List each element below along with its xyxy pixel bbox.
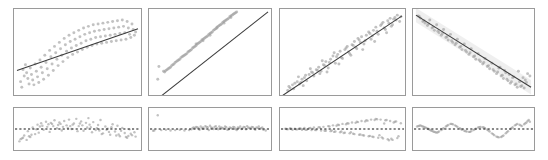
panel-scatter-2-plot	[149, 9, 271, 95]
panel-scatter-3	[279, 8, 406, 96]
panel-scatter-2	[148, 8, 272, 96]
panel-scatter-4-plot	[413, 9, 534, 95]
panel-scatter-3-plot	[280, 9, 405, 95]
panel-scatter-1	[13, 8, 142, 96]
panel-residual-4-plot	[413, 108, 534, 150]
panel-residual-1	[13, 107, 142, 151]
panel-residual-2-plot	[149, 108, 271, 150]
panel-scatter-1-plot	[14, 9, 141, 95]
panel-residual-2	[148, 107, 272, 151]
panel-scatter-4	[412, 8, 535, 96]
panel-residual-3	[279, 107, 406, 151]
regression-diagnostics-figure	[0, 0, 548, 160]
panel-residual-4	[412, 107, 535, 151]
panel-residual-3-plot	[280, 108, 405, 150]
panel-residual-1-plot	[14, 108, 141, 150]
